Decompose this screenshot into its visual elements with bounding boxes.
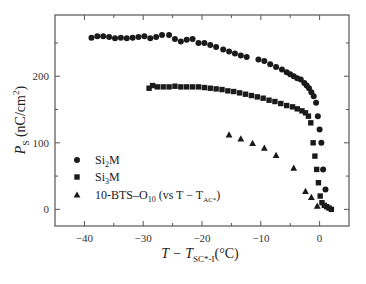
data-point [237,90,242,95]
y-tick-label: 100 [33,137,50,149]
data-point [238,53,244,59]
y-axis-title: PS (nC/cm2) [11,86,31,156]
data-point [295,106,300,111]
data-point [112,35,118,41]
data-point [88,35,94,41]
data-point [226,49,232,55]
legend-label: 10-BTS–O10 (vs T − TAC*) [95,188,220,204]
legend-item: Si3M [74,170,120,186]
data-point [190,84,195,89]
data-point [317,193,322,198]
data-point [159,32,165,38]
data-point [260,96,265,101]
data-point [202,85,207,90]
data-point [153,34,159,40]
data-point [314,167,319,172]
data-point [316,180,321,185]
x-tick-label: −10 [252,232,270,244]
data-point [172,36,178,42]
data-point [225,88,230,93]
data-point [226,131,233,137]
data-point [231,89,236,94]
data-point [249,140,256,146]
data-point [207,42,213,48]
data-point [273,152,280,158]
legend-label: Si3M [95,170,120,186]
data-point [213,44,219,50]
data-point [190,36,196,42]
data-point [312,153,317,158]
data-point [184,37,190,43]
data-point [135,34,141,40]
data-point [213,86,218,91]
data-point [266,97,271,102]
data-point [261,145,268,151]
data-point [329,207,334,212]
series-triangle [226,131,321,208]
data-point [232,51,238,57]
data-point [308,194,315,200]
x-axis-title: T − TSC*-I(°C) [161,246,239,264]
legend-square-icon [74,174,79,179]
data-point [195,40,201,46]
data-point [237,135,244,141]
data-point [315,113,321,119]
data-series [88,32,334,212]
data-point [278,101,283,106]
data-point [284,103,289,108]
data-point [208,86,213,91]
data-point [150,83,155,88]
legend-triangle-icon [74,191,81,197]
data-point [220,47,226,53]
x-tick-label: −40 [76,232,94,244]
data-point [306,113,311,118]
data-point [100,33,106,39]
legend-label: Si2M [95,153,120,169]
data-point [118,35,124,41]
data-point [273,64,279,70]
data-point [160,84,165,89]
data-point [290,104,295,109]
data-point [94,33,100,39]
data-point [290,164,297,170]
data-point [166,84,171,89]
data-point [317,126,323,132]
data-point [272,99,277,104]
data-point [178,39,184,45]
data-point [196,84,201,89]
chart-canvas: −40−30−20−1000100200 Si2MSi3M10-BTS–O10 … [0,0,366,284]
data-point [261,58,267,64]
data-point [311,93,317,99]
axis-ticks: −40−30−20−1000100200 [33,15,350,244]
data-point [313,100,319,106]
data-point [318,140,324,146]
data-point [249,93,254,98]
data-point [141,33,147,39]
data-point [308,120,313,125]
x-tick-label: −30 [135,232,153,244]
data-point [155,84,160,89]
data-point [267,61,273,67]
data-point [320,166,326,172]
x-tick-label: 0 [317,232,323,244]
data-point [322,186,328,192]
legend: Si2MSi3M10-BTS–O10 (vs T − TAC*) [74,153,221,204]
legend-circle-icon [74,157,80,163]
data-point [166,32,172,38]
legend-item: Si2M [74,153,120,169]
data-point [184,84,189,89]
data-point [219,87,224,92]
legend-item: 10-BTS–O10 (vs T − TAC*) [74,188,221,204]
x-tick-label: −20 [193,232,211,244]
data-point [201,40,207,46]
data-point [178,84,183,89]
data-point [302,188,309,194]
data-point [243,92,248,97]
data-point [106,34,112,40]
data-point [147,35,153,41]
data-point [255,57,261,63]
data-point [130,35,136,41]
data-point [310,140,315,145]
data-point [172,84,177,89]
y-tick-label: 200 [33,70,50,82]
